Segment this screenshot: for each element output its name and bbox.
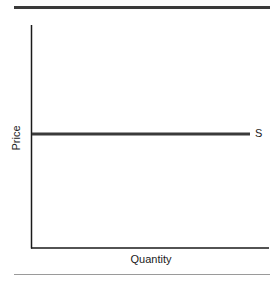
x-axis-label: Quantity <box>100 253 202 265</box>
y-axis-label: Price <box>10 118 22 158</box>
bottom-rule <box>14 274 270 275</box>
chart-plot-area <box>0 0 279 281</box>
supply-curve-label: S <box>255 127 262 139</box>
